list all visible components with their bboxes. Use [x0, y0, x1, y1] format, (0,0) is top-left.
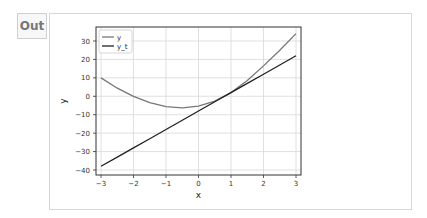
x-tick-label: −2 [128, 180, 138, 188]
y-tick-label: 20 [81, 56, 90, 64]
legend: yy_t [99, 30, 132, 53]
y-tick-label: −40 [75, 167, 90, 175]
y-tick-label: 10 [81, 74, 90, 82]
x-axis-label: x [196, 190, 202, 200]
y-tick-label: −30 [75, 148, 90, 156]
y-tick-label: −20 [75, 130, 90, 138]
x-tick-label: 3 [294, 180, 298, 188]
x-tick-label: 1 [229, 180, 233, 188]
line-chart: −3−2−10123−40−30−20−100102030xyyy_t [0, 0, 427, 218]
x-tick-label: −3 [96, 180, 106, 188]
y-axis-label: y [58, 98, 68, 104]
x-tick-label: 0 [196, 180, 200, 188]
x-tick-label: −1 [161, 180, 171, 188]
x-tick-label: 2 [261, 180, 265, 188]
legend-label: y [117, 34, 121, 42]
y-tick-label: 0 [86, 93, 90, 101]
legend-label: y_t [117, 43, 128, 51]
y-tick-label: 30 [81, 38, 90, 46]
y-tick-label: −10 [75, 111, 90, 119]
